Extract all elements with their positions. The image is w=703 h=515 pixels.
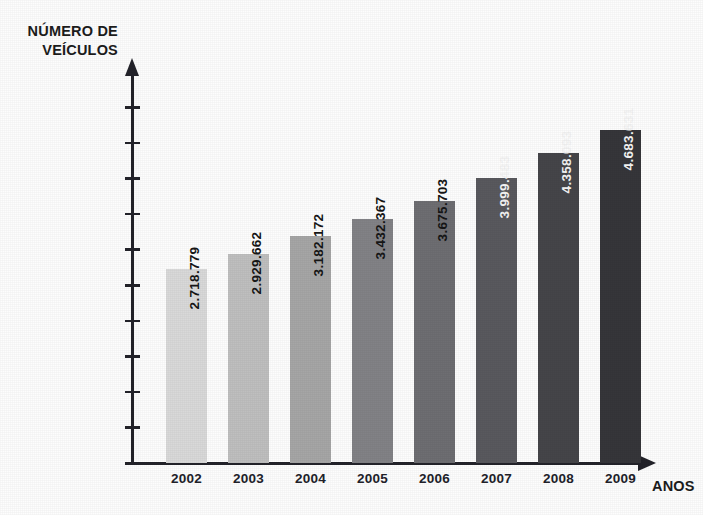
x-axis-tick-label-2003: 2003 xyxy=(218,471,279,486)
x-axis-tick-label-2008: 2008 xyxy=(528,471,589,486)
bar-value-label: 4.683.631 xyxy=(621,107,636,170)
bar-value-label: 3.999.483 xyxy=(497,156,512,219)
bar-2008: 4.358.093 xyxy=(538,153,579,463)
bar-2005: 3.432.367 xyxy=(352,219,393,463)
bar-value-label: 2.718.779 xyxy=(187,247,202,310)
x-axis-tick-label-2007: 2007 xyxy=(466,471,527,486)
bar-2007: 3.999.483 xyxy=(476,178,517,463)
bar-2003: 2.929.662 xyxy=(228,254,269,463)
x-axis-tick-label-2006: 2006 xyxy=(404,471,465,486)
bar-2004: 3.182.172 xyxy=(290,236,331,463)
bar-value-label: 3.432.367 xyxy=(373,196,388,259)
bars-layer: 2.718.77920022.929.66220033.182.17220043… xyxy=(0,0,703,515)
bar-value-label: 3.182.172 xyxy=(311,214,326,277)
x-axis-tick-label-2009: 2009 xyxy=(590,471,651,486)
bar-2009: 4.683.631 xyxy=(600,130,641,463)
x-axis-tick-label-2002: 2002 xyxy=(156,471,217,486)
bar-2006: 3.675.703 xyxy=(414,201,455,463)
bar-value-label: 4.358.093 xyxy=(559,130,574,193)
x-axis-tick-label-2004: 2004 xyxy=(280,471,341,486)
bar-2002: 2.718.779 xyxy=(166,269,207,463)
bar-chart: NÚMERO DE VEÍCULOS ANOS 5.000.0004.500.0… xyxy=(0,0,703,515)
x-axis-tick-label-2005: 2005 xyxy=(342,471,403,486)
bar-value-label: 2.929.662 xyxy=(249,232,264,295)
bar-value-label: 3.675.703 xyxy=(435,179,450,242)
